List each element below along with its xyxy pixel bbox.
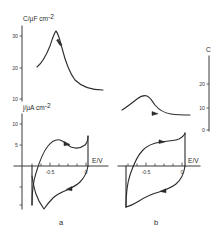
panel-a-cv-ytick-5: 5 <box>15 142 18 148</box>
figure-background <box>0 0 223 236</box>
panel-b-caption: b <box>154 218 158 227</box>
cv-unit-text: j/µA cm <box>22 104 45 112</box>
panel-b-cap-ytick-10: 10 <box>199 105 205 111</box>
electrochemistry-figure: 30 20 10 C/µF cm-2 10 5 j/µA cm-2 <box>0 0 223 236</box>
panel-b-cap-ytick-20: 20 <box>199 81 205 87</box>
cap-unit-text: C/µF cm <box>23 15 49 23</box>
figure-root: 30 20 10 C/µF cm-2 10 5 j/µA cm-2 <box>0 0 223 236</box>
panel-b-cap-y-axis-title: C <box>206 46 211 53</box>
panel-a-cv-x-axis-title: E/V <box>92 157 103 164</box>
cv-unit-exponent: -2 <box>45 102 51 109</box>
panel-a-cap-ytick-10: 10 <box>12 96 18 102</box>
panel-a-cv-xtick-minus05: -0.5 <box>46 169 55 175</box>
panel-a-cap-ytick-20: 20 <box>12 65 18 71</box>
panel-b-cv-x-axis-title: E/V <box>188 157 199 164</box>
panel-a-cap-ytick-30: 30 <box>12 33 18 39</box>
panel-a-cv-ytick-10: 10 <box>12 121 18 127</box>
panel-b-cv-xtick-minus05: -0.5 <box>142 169 151 175</box>
panel-b-cap-ytick-0: 0 <box>202 127 205 133</box>
cap-unit-exponent: -2 <box>48 13 54 20</box>
